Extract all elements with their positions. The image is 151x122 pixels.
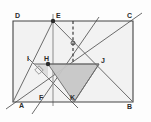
point-label-e: E [56, 12, 61, 19]
point-label-b: B [127, 103, 132, 110]
point-label-d: D [15, 12, 20, 19]
geometry-svg: D E C I H J A F K B [0, 0, 151, 122]
point-label-k: K [70, 94, 75, 101]
point-label-i: I [27, 55, 29, 62]
point-label-h: H [44, 55, 49, 62]
vertex-dot-h [46, 62, 50, 66]
vertex-dot-e [51, 19, 55, 23]
point-label-c: C [127, 12, 132, 19]
point-label-f: F [39, 94, 44, 101]
geometry-figure: D E C I H J A F K B [0, 0, 151, 122]
point-label-a: A [19, 102, 24, 109]
point-label-j: J [101, 57, 105, 64]
